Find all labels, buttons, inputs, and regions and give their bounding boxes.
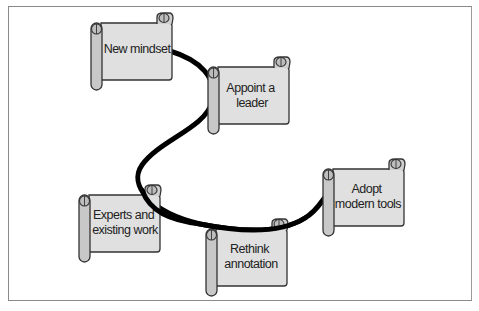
scroll-label-line: New mindset	[104, 42, 172, 56]
scroll-label-line: leader	[236, 96, 268, 110]
scroll-label-line: Appoint a	[226, 81, 275, 95]
scroll-adopt-modern-tools: Adopt modern tools	[323, 159, 405, 236]
scroll-flow-diagram: New mindset Appoint a leader Adopt moder…	[0, 0, 479, 311]
scroll-appoint-a-leader: Appoint a leader	[208, 57, 290, 134]
svg-text:Rethink annotation: Rethink annotation	[224, 242, 278, 271]
svg-text:Experts and existing wor: Experts and existing work	[92, 208, 159, 237]
svg-text:New mindset: New mindset	[104, 42, 172, 56]
scroll-new-mindset: New mindset	[91, 13, 173, 90]
scroll-label-line: modern tools	[335, 197, 402, 211]
scroll-label-line: Rethink	[230, 242, 270, 256]
scroll-label-line: Adopt	[351, 182, 382, 196]
scroll-label-line: Experts and	[93, 208, 155, 222]
scroll-label-line: annotation	[224, 257, 278, 271]
scroll-experts-and-existing-work: Experts and existing work	[79, 185, 161, 262]
scroll-label-line: existing work	[92, 223, 159, 237]
